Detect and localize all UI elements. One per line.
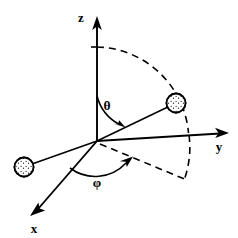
particle-upper-right — [166, 93, 186, 113]
particle-lower-left — [14, 157, 34, 177]
angle-label-theta: θ — [103, 98, 110, 113]
angle-label-phi: φ — [93, 175, 101, 190]
phi-arc-arrow-icon — [120, 157, 133, 167]
spherical-coordinates-figure: z y x θ φ — [0, 0, 238, 238]
axis-x: x — [30, 141, 97, 236]
axis-label-z: z — [78, 10, 84, 25]
axis-label-x: x — [31, 221, 38, 236]
diagram-canvas: z y x θ φ — [0, 0, 238, 238]
axis-label-y: y — [216, 139, 223, 154]
